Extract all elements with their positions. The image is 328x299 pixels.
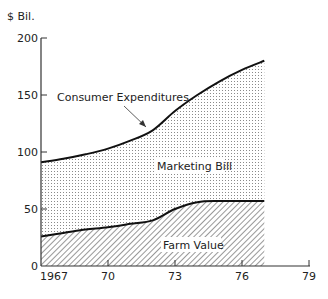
consumer-expenditures-label: Consumer Expenditures	[57, 91, 189, 104]
x-tick-label: 79	[302, 270, 316, 283]
x-tick-label: 1967	[40, 270, 68, 283]
y-tick-label: 100	[17, 146, 38, 159]
x-tick-label: 70	[101, 270, 115, 283]
marketing-bill-label: Marketing Bill	[157, 160, 232, 173]
area-chart: 050100150200 196770737679 $ Bil. Consume…	[0, 0, 328, 299]
y-tick-label: 150	[17, 89, 38, 102]
x-tick-label: 76	[235, 270, 249, 283]
y-tick-label: 0	[31, 260, 38, 273]
y-tick-label: 200	[17, 32, 38, 45]
y-tick-label: 50	[24, 203, 38, 216]
x-tick-label: 73	[168, 270, 182, 283]
farm-value-label: Farm Value	[163, 239, 224, 252]
y-axis-label: $ Bil.	[7, 10, 35, 23]
